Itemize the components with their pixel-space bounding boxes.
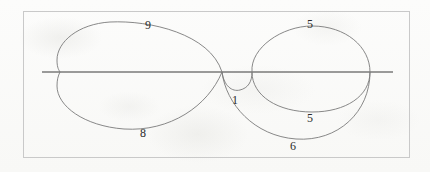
arc-upper-right-ellipse bbox=[252, 26, 370, 72]
arc-lower-right-inner bbox=[252, 72, 370, 112]
arc-lower-left-loop bbox=[57, 72, 222, 129]
arc-label-9: 9 bbox=[145, 19, 151, 31]
arc-label-5-top: 5 bbox=[307, 18, 313, 30]
arc-label-5-bottom: 5 bbox=[307, 112, 313, 124]
arc-upper-left-loop bbox=[57, 22, 222, 72]
arc-label-1: 1 bbox=[232, 94, 238, 106]
curve-diagram bbox=[0, 0, 430, 172]
arc-label-6: 6 bbox=[290, 140, 296, 152]
arc-inner-small-arc bbox=[222, 72, 252, 90]
arc-label-8: 8 bbox=[140, 127, 146, 139]
figure-frame bbox=[24, 12, 410, 158]
figure-page: 9 5 1 5 8 6 bbox=[0, 0, 430, 172]
arc-lower-right-outer bbox=[222, 72, 370, 139]
